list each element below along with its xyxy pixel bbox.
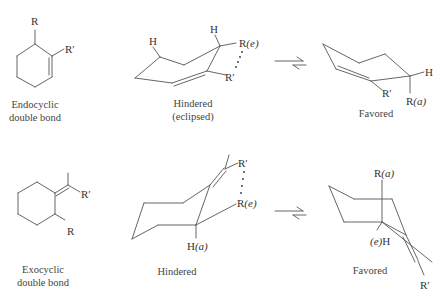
caption-favored: Favored bbox=[353, 265, 388, 276]
caption-eclipsed: (eclipsed) bbox=[172, 111, 214, 123]
endocyclic-hindered-conformer: H H R(e) R′ bbox=[135, 23, 259, 86]
endocyclic-flat-structure: R R′ bbox=[17, 15, 75, 87]
label-h-right: H bbox=[210, 23, 218, 35]
label-r-axial: R(a) bbox=[406, 95, 427, 108]
label-h-equatorial: (e)H bbox=[370, 235, 390, 248]
endocyclic-favored-conformer: H R′ R(a) bbox=[323, 44, 433, 108]
caption-double-bond: double bond bbox=[17, 277, 70, 288]
caption-favored: Favored bbox=[359, 108, 394, 119]
label-r-prime: R′ bbox=[382, 87, 392, 99]
exocyclic-hindered-conformer: R′ R(e) H(a) bbox=[132, 155, 257, 253]
label-r-prime: R′ bbox=[420, 279, 430, 291]
label-h-axial: H(a) bbox=[187, 240, 208, 253]
caption-endocyclic: Endocyclic bbox=[11, 99, 59, 110]
caption-double-bond: double bond bbox=[9, 112, 62, 123]
caption-hindered: Hindered bbox=[157, 266, 197, 277]
substituent-r: R bbox=[67, 225, 75, 237]
substituent-r-prime: R′ bbox=[65, 43, 75, 55]
label-r-axial: R(a) bbox=[374, 167, 395, 180]
label-r-equatorial: R(e) bbox=[237, 197, 257, 210]
label-r-prime: R′ bbox=[225, 71, 235, 83]
label-r-equatorial: R(e) bbox=[239, 37, 259, 50]
label-r-prime: R′ bbox=[238, 157, 248, 169]
equilibrium-arrow-1 bbox=[275, 57, 306, 69]
label-h: H bbox=[425, 66, 433, 78]
label-h-left: H bbox=[149, 35, 157, 47]
caption-exocyclic: Exocyclic bbox=[22, 264, 64, 275]
conformation-diagram: R R′ Endocyclic double bond H H R(e) R′ … bbox=[0, 0, 446, 298]
caption-hindered: Hindered bbox=[173, 98, 213, 109]
substituent-r-prime: R′ bbox=[81, 188, 91, 200]
substituent-r: R bbox=[31, 15, 39, 27]
exocyclic-flat-structure: R′ R bbox=[18, 173, 91, 237]
equilibrium-arrow-2 bbox=[275, 207, 306, 219]
